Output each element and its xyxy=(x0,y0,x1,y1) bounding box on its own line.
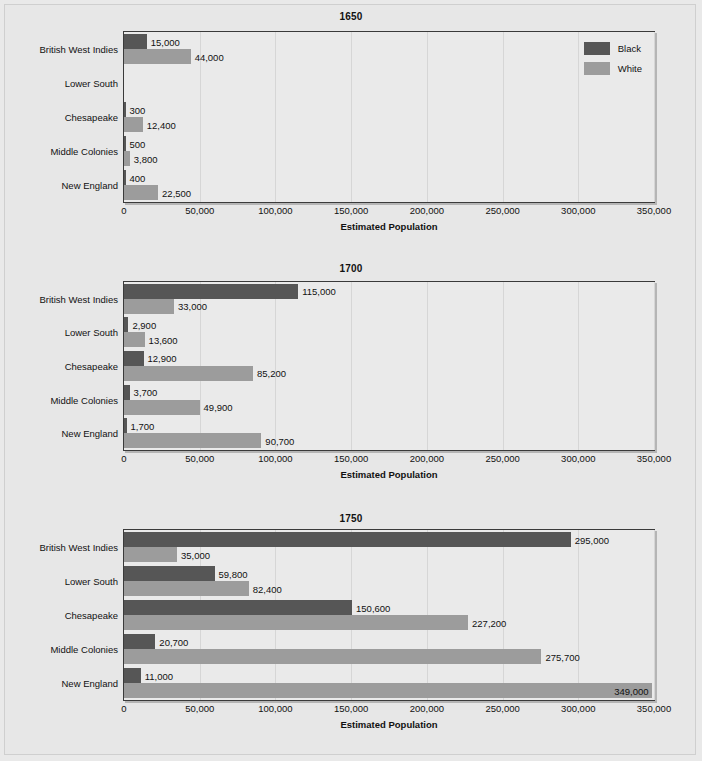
bar-white[interactable]: 90,700 xyxy=(124,433,261,448)
gridline xyxy=(654,530,655,700)
bar-row: 13,600 xyxy=(124,332,654,347)
bar-white[interactable]: 22,500 xyxy=(124,185,158,200)
bar-white[interactable]: 13,600 xyxy=(124,332,145,347)
bar-black[interactable]: 15,000 xyxy=(124,34,147,49)
x-axis-tick-label: 0 xyxy=(121,703,126,714)
category-label: New England xyxy=(61,428,118,439)
bar-group: New England11,000349,000 xyxy=(124,666,654,700)
bar-value-label: 85,200 xyxy=(257,368,286,379)
bar-value-label: 15,000 xyxy=(151,36,180,47)
bar-white[interactable]: 349,000 xyxy=(124,683,652,698)
bar-value-label: 349,000 xyxy=(614,685,648,696)
x-axis-tick-label: 50,000 xyxy=(185,453,214,464)
x-axis-tick-label: 50,000 xyxy=(185,703,214,714)
bar-value-label: 3,700 xyxy=(134,387,158,398)
bar-black[interactable]: 150,600 xyxy=(124,600,352,615)
bar-white[interactable]: 44,000 xyxy=(124,49,191,64)
x-axis-tick-label: 300,000 xyxy=(561,205,595,216)
bar-row: 275,700 xyxy=(124,649,654,664)
bar-group: Middle Colonies3,70049,900 xyxy=(124,383,654,417)
bar-groups: British West Indies115,00033,000Lower So… xyxy=(124,282,654,450)
bar-black[interactable]: 295,000 xyxy=(124,532,571,547)
bar-black[interactable]: 400 xyxy=(124,170,126,185)
x-axis-tick-label: 200,000 xyxy=(410,703,444,714)
gridline xyxy=(654,282,655,450)
bar-group: Chesapeake12,90085,200 xyxy=(124,349,654,383)
legend-item[interactable]: White xyxy=(584,62,642,75)
bar-row: 115,000 xyxy=(124,284,654,299)
bar-value-label: 2,900 xyxy=(132,319,156,330)
bar-value-label: 227,200 xyxy=(472,617,506,628)
bar-row: 33,000 xyxy=(124,299,654,314)
legend: BlackWhite xyxy=(584,42,642,82)
x-axis-tick-label: 100,000 xyxy=(258,703,292,714)
bar-black[interactable]: 12,900 xyxy=(124,351,144,366)
bar-black[interactable]: 11,000 xyxy=(124,668,141,683)
bar-row: 227,200 xyxy=(124,615,654,630)
bar-row: 300 xyxy=(124,102,654,117)
bar-black[interactable]: 300 xyxy=(124,102,126,117)
bar-white[interactable]: 49,900 xyxy=(124,400,200,415)
x-axis-tick-label: 0 xyxy=(121,205,126,216)
bar-value-label: 275,700 xyxy=(545,651,579,662)
bar-group: British West Indies15,00044,000 xyxy=(124,32,654,66)
bar-row: 295,000 xyxy=(124,532,654,547)
bar-row: 3,800 xyxy=(124,151,654,166)
bar-row: 150,600 xyxy=(124,600,654,615)
bar-white[interactable]: 35,000 xyxy=(124,547,177,562)
bar-row: 35,000 xyxy=(124,547,654,562)
bar-row: 12,400 xyxy=(124,117,654,132)
bar-row: 49,900 xyxy=(124,400,654,415)
bar-black[interactable]: 59,800 xyxy=(124,566,215,581)
bar-black[interactable]: 500 xyxy=(124,136,126,151)
bar-white[interactable]: 3,800 xyxy=(124,151,130,166)
x-axis-title: Estimated Population xyxy=(123,719,655,730)
bar-row: 500 xyxy=(124,136,654,151)
bar-group: British West Indies115,00033,000 xyxy=(124,282,654,316)
bar-value-label: 115,000 xyxy=(302,286,336,297)
bar-value-label: 22,500 xyxy=(162,187,191,198)
bar-row: 12,900 xyxy=(124,351,654,366)
bar-value-label: 20,700 xyxy=(159,636,188,647)
bar-value-label: 33,000 xyxy=(178,301,207,312)
bar-row: 11,000 xyxy=(124,668,654,683)
bar-white[interactable]: 82,400 xyxy=(124,581,249,596)
bar-row: 59,800 xyxy=(124,566,654,581)
plot-area: British West Indies15,00044,000Lower Sou… xyxy=(123,31,655,203)
bar-black[interactable]: 1,700 xyxy=(124,418,127,433)
bar-row: 400 xyxy=(124,170,654,185)
bar-row: 85,200 xyxy=(124,366,654,381)
bar-black[interactable]: 20,700 xyxy=(124,634,155,649)
bar-value-label: 12,400 xyxy=(147,119,176,130)
bar-value-label: 400 xyxy=(130,172,146,183)
bar-white[interactable]: 12,400 xyxy=(124,117,143,132)
category-label: Lower South xyxy=(65,327,118,338)
bar-row: 2,900 xyxy=(124,317,654,332)
legend-swatch-white xyxy=(584,62,610,75)
bar-white[interactable]: 275,700 xyxy=(124,649,541,664)
bar-black[interactable]: 115,000 xyxy=(124,284,298,299)
bar-value-label: 295,000 xyxy=(575,534,609,545)
bar-black[interactable]: 3,700 xyxy=(124,385,130,400)
category-label: Chesapeake xyxy=(65,112,118,123)
chart-title: 1700 xyxy=(5,263,697,274)
bar-value-label: 49,900 xyxy=(204,402,233,413)
legend-item[interactable]: Black xyxy=(584,42,642,55)
x-axis-tick-label: 100,000 xyxy=(258,453,292,464)
bar-white[interactable]: 85,200 xyxy=(124,366,253,381)
bar-row: 44,000 xyxy=(124,49,654,64)
legend-label: Black xyxy=(618,43,641,54)
chart-panel-1700: 1700British West Indies115,00033,000Lowe… xyxy=(5,257,697,507)
chart-panel-1650: 1650British West Indies15,00044,000Lower… xyxy=(5,5,697,257)
bar-row xyxy=(124,83,654,98)
bar-row: 3,700 xyxy=(124,385,654,400)
bar-value-label: 1,700 xyxy=(131,420,155,431)
category-label: New England xyxy=(61,678,118,689)
bar-row xyxy=(124,68,654,83)
bar-white[interactable]: 33,000 xyxy=(124,299,174,314)
x-axis-tick-label: 100,000 xyxy=(258,205,292,216)
bar-white[interactable]: 227,200 xyxy=(124,615,468,630)
bar-black[interactable]: 2,900 xyxy=(124,317,128,332)
bar-group: Lower South2,90013,600 xyxy=(124,316,654,350)
bar-row: 15,000 xyxy=(124,34,654,49)
